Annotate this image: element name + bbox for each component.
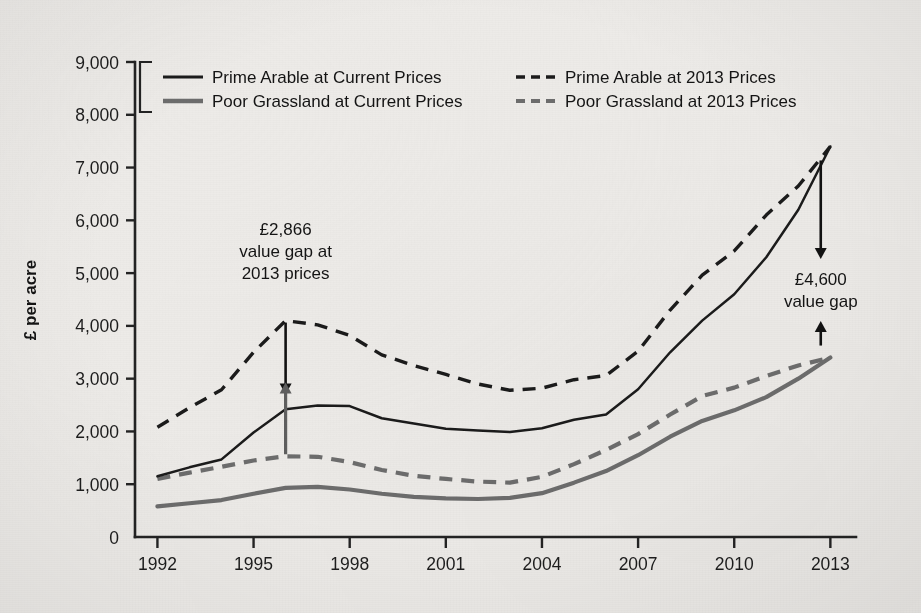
annotation-text-line: 2013 prices [242,264,330,283]
annotation-text-line: £4,600 [795,270,847,289]
x-tick-label: 1998 [330,554,369,574]
y-tick-label: 0 [109,528,119,548]
x-axis-ticks [157,537,830,548]
y-tick-label: 1,000 [75,475,119,495]
x-tick-label: 2001 [426,554,465,574]
annotations-group: £2,866value gap at2013 prices£4,600value… [239,160,857,454]
y-tick-label: 6,000 [75,211,119,231]
legend-item[interactable]: Poor Grassland at 2013 Prices [516,92,797,111]
legend-label: Poor Grassland at 2013 Prices [565,92,797,111]
data-series-group [157,146,830,506]
legend-item[interactable]: Prime Arable at 2013 Prices [516,68,776,87]
annotation-arrow-up-head [815,321,827,332]
legend-label: Prime Arable at 2013 Prices [565,68,776,87]
y-tick-label: 5,000 [75,264,119,284]
annotation-gap-1996: £2,866value gap at2013 prices [239,220,332,455]
legend-item[interactable]: Poor Grassland at Current Prices [163,92,462,111]
x-tick-label: 2004 [522,554,561,574]
x-tick-label: 2007 [619,554,658,574]
legend-bracket [140,62,152,112]
legend-item[interactable]: Prime Arable at Current Prices [163,68,442,87]
series-line-poor-grassland-at-2013-prices [157,358,830,483]
y-tick-label: 2,000 [75,422,119,442]
y-tick-label: 9,000 [75,53,119,73]
y-axis-ticks [126,62,135,484]
legend-label: Prime Arable at Current Prices [212,68,442,87]
y-tick-label: 7,000 [75,158,119,178]
line-chart-figure: 01,0002,0003,0004,0005,0006,0007,0008,00… [0,0,921,613]
annotation-arrow-down-head [815,248,827,259]
y-axis-tick-labels: 01,0002,0003,0004,0005,0006,0007,0008,00… [75,53,119,548]
x-tick-label: 2013 [811,554,850,574]
legend-label: Poor Grassland at Current Prices [212,92,462,111]
x-axis-tick-labels: 19921995199820012004200720102013 [138,554,850,574]
annotation-text-line: value gap [784,292,858,311]
chart-legend: Prime Arable at Current PricesPrime Arab… [140,62,797,112]
annotation-text-line: £2,866 [260,220,312,239]
series-line-prime-arable-at-current-prices [157,146,830,476]
y-axis-title: £ per acre [21,260,40,340]
x-tick-label: 1995 [234,554,273,574]
y-tick-label: 3,000 [75,369,119,389]
y-tick-label: 4,000 [75,316,119,336]
y-tick-label: 8,000 [75,105,119,125]
annotation-text-line: value gap at [239,242,332,261]
series-line-prime-arable-at-2013-prices [157,146,830,427]
x-tick-label: 1992 [138,554,177,574]
chart-canvas: 01,0002,0003,0004,0005,0006,0007,0008,00… [0,0,921,613]
axes-group: 01,0002,0003,0004,0005,0006,0007,0008,00… [75,53,856,575]
x-tick-label: 2010 [715,554,754,574]
